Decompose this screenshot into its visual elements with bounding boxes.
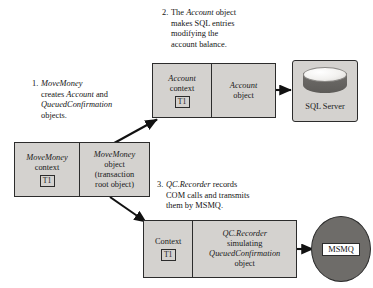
account-object-cell: Account object <box>212 64 275 117</box>
component-box-movemoney[interactable]: MoveMoney context T1 MoveMoney object (t… <box>14 142 150 197</box>
qcrecorder-context-cell: Context T1 <box>144 221 193 277</box>
callout-step-1: 1. MoveMoney creates Account and QueuedC… <box>32 79 112 121</box>
qcrecorder-transaction-badge: T1 <box>161 249 176 261</box>
msmq-node[interactable]: MSMQ <box>311 216 371 282</box>
movemoney-transaction-badge: T1 <box>40 175 55 187</box>
callout-2-lines: The Account object makes SQL entries mod… <box>171 8 236 50</box>
database-cylinder-icon <box>303 67 347 99</box>
callout-3-lines: QC.Recorder records COM calls and transm… <box>166 180 250 212</box>
qcrecorder-object-cell: QC.Recorder simulating QueuedConfirmatio… <box>193 221 296 277</box>
callout-1-number: 1. <box>32 79 38 90</box>
component-box-account[interactable]: Account context T1 Account object <box>152 63 276 118</box>
sql-server-label: SQL Server <box>305 102 344 111</box>
arrow-movemoney-to-qcrecorder <box>110 197 146 222</box>
account-transaction-badge: T1 <box>175 96 190 108</box>
callout-step-3: 3. QC.Recorder records COM calls and tra… <box>157 180 250 212</box>
movemoney-object-cell: MoveMoney object (transaction root objec… <box>80 143 149 196</box>
movemoney-context-cell: MoveMoney context T1 <box>15 143 80 196</box>
callout-2-number: 2. <box>162 8 168 19</box>
component-interaction-diagram: 2. The Account object makes SQL entries … <box>0 0 373 288</box>
sql-server-node[interactable]: SQL Server <box>292 60 358 122</box>
component-box-qcrecorder[interactable]: Context T1 QC.Recorder simulating Queued… <box>143 220 297 278</box>
callout-step-2: 2. The Account object makes SQL entries … <box>162 8 236 50</box>
account-context-cell: Account context T1 <box>153 64 212 117</box>
msmq-label: MSMQ <box>322 243 360 256</box>
callout-3-number: 3. <box>157 180 163 191</box>
callout-1-lines: MoveMoney creates Account and QueuedConf… <box>41 79 112 121</box>
